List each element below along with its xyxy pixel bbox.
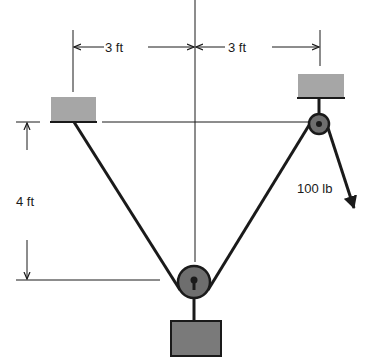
force-arrow [328,128,354,208]
height-dimension: 4 ft [16,123,34,279]
left-support-block [51,97,96,121]
cable-left [74,122,180,290]
bottom-pulley [178,266,210,298]
right-pulley [309,114,329,134]
hanging-weight [171,321,221,356]
right-support-block [298,74,344,98]
height-label: 4 ft [16,194,34,209]
diagram-canvas: 3 ft 3 ft 4 ft 100 lb [0,0,365,360]
force-label: 100 lb [297,181,332,196]
cable-right [208,122,311,290]
left-span-dimension: 3 ft [74,40,194,55]
left-span-label: 3 ft [105,40,123,55]
right-span-label: 3 ft [228,40,246,55]
right-span-dimension: 3 ft [196,40,319,55]
pulley-diagram: 3 ft 3 ft 4 ft 100 lb [0,0,365,360]
